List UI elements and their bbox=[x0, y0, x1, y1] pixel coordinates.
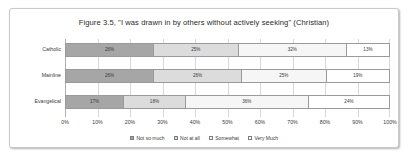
x-tick-label: 0% bbox=[61, 119, 69, 125]
legend-item-not-so-much[interactable]: Not so much bbox=[130, 135, 165, 141]
bar-value-label: 26% bbox=[105, 74, 114, 79]
x-tick-label: 40% bbox=[190, 119, 200, 125]
legend-label: Somewhat bbox=[215, 135, 239, 141]
bar-segment[interactable]: 26% bbox=[153, 69, 241, 83]
legend-label: Not at all bbox=[180, 135, 200, 141]
x-tick-label: 70% bbox=[287, 119, 297, 125]
bar-segment[interactable]: 36% bbox=[185, 95, 308, 109]
bar-segment[interactable]: 26% bbox=[65, 69, 153, 83]
bar-segment[interactable]: 25% bbox=[241, 69, 326, 83]
plot-area: 26%25%32%13%26%26%25%19%17%18%36%24% bbox=[65, 39, 390, 117]
legend-item-very-much[interactable]: Very Much bbox=[248, 135, 278, 141]
legend-swatch-icon bbox=[130, 136, 135, 141]
bar-row: 17%18%36%24% bbox=[65, 95, 390, 109]
bar-value-label: 17% bbox=[90, 100, 99, 105]
legend-swatch-icon bbox=[248, 136, 253, 141]
legend-item-not-at-all[interactable]: Not at all bbox=[174, 135, 200, 141]
legend-label: Very Much bbox=[254, 135, 278, 141]
bar-value-label: 19% bbox=[353, 74, 362, 79]
x-tick-label: 90% bbox=[352, 119, 362, 125]
figure-panel: Figure 3.5, "I was drawn in by others wi… bbox=[9, 8, 399, 148]
bar-value-label: 36% bbox=[242, 100, 251, 105]
x-tick-label: 20% bbox=[125, 119, 135, 125]
bar-segment[interactable]: 17% bbox=[65, 95, 123, 109]
bar-value-label: 26% bbox=[105, 48, 114, 53]
legend-item-somewhat[interactable]: Somewhat bbox=[209, 135, 239, 141]
chart-title: Figure 3.5, "I was drawn in by others wi… bbox=[10, 18, 398, 27]
legend: Not so much Not at all Somewhat Very Muc… bbox=[10, 135, 398, 141]
bar-segment[interactable]: 24% bbox=[308, 95, 390, 109]
x-tick-label: 30% bbox=[157, 119, 167, 125]
bar-segment[interactable]: 18% bbox=[123, 95, 185, 109]
bar-value-label: 32% bbox=[288, 48, 297, 53]
category-label-mainline: Mainline bbox=[13, 72, 61, 78]
category-label-catholic: Catholic bbox=[13, 46, 61, 52]
x-tick-label: 50% bbox=[222, 119, 232, 125]
bar-value-label: 24% bbox=[344, 100, 353, 105]
bar-value-label: 13% bbox=[363, 48, 372, 53]
bar-row: 26%26%25%19% bbox=[65, 69, 390, 83]
category-label-evangelical: Evangelical bbox=[13, 98, 61, 104]
bar-segment[interactable]: 26% bbox=[65, 43, 153, 57]
bar-row: 26%25%32%13% bbox=[65, 43, 390, 57]
x-axis: 0%10%20%30%40%50%60%70%80%90%100% bbox=[65, 119, 390, 131]
bar-segment[interactable]: 13% bbox=[346, 43, 390, 57]
bar-value-label: 18% bbox=[150, 100, 159, 105]
bar-segment[interactable]: 32% bbox=[238, 43, 346, 57]
legend-swatch-icon bbox=[174, 136, 179, 141]
x-tick-label: 80% bbox=[320, 119, 330, 125]
bar-value-label: 25% bbox=[279, 74, 288, 79]
bar-segment[interactable]: 19% bbox=[326, 69, 390, 83]
legend-label: Not so much bbox=[136, 135, 164, 141]
legend-swatch-icon bbox=[209, 136, 214, 141]
bar-value-label: 25% bbox=[191, 48, 200, 53]
bar-series-group: 26%25%32%13%26%26%25%19%17%18%36%24% bbox=[65, 39, 390, 117]
bar-value-label: 26% bbox=[193, 74, 202, 79]
x-tick-label: 10% bbox=[92, 119, 102, 125]
bar-segment[interactable]: 25% bbox=[153, 43, 238, 57]
x-tick-label: 60% bbox=[255, 119, 265, 125]
category-axis: Catholic Mainline Evangelical bbox=[10, 39, 61, 117]
x-tick-label: 100% bbox=[383, 119, 396, 125]
